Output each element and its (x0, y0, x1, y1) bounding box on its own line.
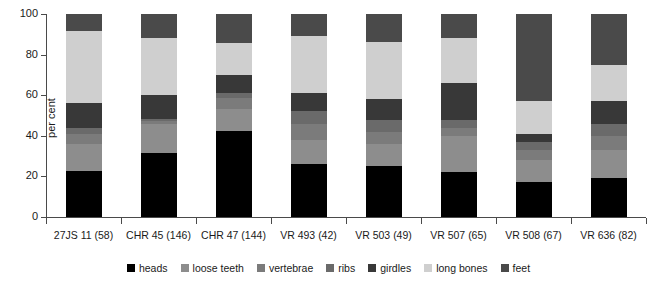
bar-segment-feet[interactable] (441, 14, 477, 38)
bar-segment-feet[interactable] (516, 14, 552, 101)
bar-segment-feet[interactable] (66, 14, 102, 31)
y-tick-100 (41, 14, 47, 15)
bar-segment-ribs[interactable] (216, 93, 252, 98)
bar-segment-vertebrae[interactable] (441, 128, 477, 136)
bar-4[interactable] (366, 14, 402, 217)
x-tick-4 (346, 218, 347, 224)
bar-segment-ribs[interactable] (441, 120, 477, 128)
x-tick-3 (271, 218, 272, 224)
bar-segment-girdles[interactable] (441, 83, 477, 120)
bar-segment-girdles[interactable] (216, 75, 252, 93)
bar-segment-loose-teeth[interactable] (216, 109, 252, 130)
bar-segment-ribs[interactable] (591, 124, 627, 136)
legend-label: feet (513, 262, 531, 274)
bar-segment-feet[interactable] (216, 14, 252, 43)
bar-segment-loose-teeth[interactable] (141, 124, 177, 153)
bar-segment-heads[interactable] (516, 182, 552, 217)
legend-swatch-icon (368, 264, 376, 272)
x-tick-1 (121, 218, 122, 224)
y-tick-label-0: 0 (8, 211, 38, 222)
bar-5[interactable] (441, 14, 477, 217)
bar-segment-long-bones[interactable] (216, 43, 252, 74)
bar-segment-ribs[interactable] (141, 119, 177, 121)
legend-item-heads[interactable]: heads (127, 262, 168, 274)
bar-segment-vertebrae[interactable] (216, 98, 252, 109)
y-tick-80 (41, 55, 47, 56)
bar-segment-heads[interactable] (216, 131, 252, 217)
bar-segment-vertebrae[interactable] (141, 121, 177, 124)
legend-item-loose-teeth[interactable]: loose teeth (181, 262, 244, 274)
legend-swatch-icon (326, 264, 334, 272)
y-axis-line (46, 14, 47, 217)
bar-segment-heads[interactable] (366, 166, 402, 217)
bar-segment-long-bones[interactable] (66, 31, 102, 103)
bar-segment-loose-teeth[interactable] (366, 144, 402, 166)
legend-label: long bones (436, 262, 487, 274)
bar-segment-loose-teeth[interactable] (66, 144, 102, 171)
legend-swatch-icon (501, 264, 509, 272)
bar-segment-long-bones[interactable] (141, 38, 177, 95)
bar-segment-loose-teeth[interactable] (441, 136, 477, 173)
legend-swatch-icon (424, 264, 432, 272)
x-tick-2 (196, 218, 197, 224)
bar-segment-loose-teeth[interactable] (516, 160, 552, 182)
bar-segment-ribs[interactable] (366, 120, 402, 132)
bar-segment-girdles[interactable] (141, 95, 177, 118)
bar-segment-loose-teeth[interactable] (291, 140, 327, 164)
bar-segment-vertebrae[interactable] (516, 150, 552, 160)
legend-item-long-bones[interactable]: long bones (424, 262, 487, 274)
bar-0[interactable] (66, 14, 102, 217)
bar-segment-loose-teeth[interactable] (591, 150, 627, 178)
y-tick-60 (41, 95, 47, 96)
bar-segment-vertebrae[interactable] (291, 124, 327, 140)
bar-segment-heads[interactable] (66, 171, 102, 217)
chart-legend: headsloose teethvertebraeribsgirdleslong… (0, 262, 657, 274)
y-tick-label-20: 20 (8, 170, 38, 181)
bar-segment-long-bones[interactable] (291, 36, 327, 93)
bar-3[interactable] (291, 14, 327, 217)
bar-segment-long-bones[interactable] (591, 65, 627, 102)
bar-segment-heads[interactable] (291, 164, 327, 217)
legend-item-girdles[interactable]: girdles (368, 262, 411, 274)
legend-label: heads (139, 262, 168, 274)
bar-1[interactable] (141, 14, 177, 217)
bar-segment-girdles[interactable] (366, 99, 402, 119)
legend-item-ribs[interactable]: ribs (326, 262, 355, 274)
bar-segment-feet[interactable] (291, 14, 327, 36)
bar-segment-girdles[interactable] (66, 103, 102, 127)
legend-swatch-icon (257, 264, 265, 272)
y-tick-label-100: 100 (8, 8, 38, 19)
bar-segment-feet[interactable] (366, 14, 402, 42)
bar-segment-heads[interactable] (591, 178, 627, 217)
bar-segment-heads[interactable] (441, 172, 477, 217)
y-tick-label-60: 60 (8, 89, 38, 100)
bar-segment-heads[interactable] (141, 153, 177, 217)
bar-segment-feet[interactable] (141, 14, 177, 38)
bar-segment-ribs[interactable] (66, 128, 102, 134)
bar-7[interactable] (591, 14, 627, 217)
bar-segment-ribs[interactable] (291, 111, 327, 123)
bar-2[interactable] (216, 14, 252, 217)
bar-segment-girdles[interactable] (516, 134, 552, 142)
bar-segment-vertebrae[interactable] (366, 132, 402, 144)
bar-segment-vertebrae[interactable] (591, 136, 627, 150)
legend-item-vertebrae[interactable]: vertebrae (257, 262, 313, 274)
bar-segment-girdles[interactable] (291, 93, 327, 111)
bar-segment-ribs[interactable] (516, 142, 552, 150)
x-tick-7 (571, 218, 572, 224)
bar-segment-feet[interactable] (591, 14, 627, 65)
bar-segment-girdles[interactable] (591, 101, 627, 123)
legend-swatch-icon (181, 264, 189, 272)
x-tick-5 (421, 218, 422, 224)
bar-segment-vertebrae[interactable] (66, 134, 102, 144)
legend-label: girdles (380, 262, 411, 274)
bar-segment-long-bones[interactable] (366, 42, 402, 99)
bar-segment-long-bones[interactable] (441, 38, 477, 83)
y-tick-20 (41, 176, 47, 177)
x-tick-6 (496, 218, 497, 224)
bar-segment-long-bones[interactable] (516, 101, 552, 133)
legend-label: ribs (338, 262, 355, 274)
bar-6[interactable] (516, 14, 552, 217)
stacked-bar-chart: per cent 020406080100 27JS 11 (58)CHR 45… (0, 0, 657, 286)
legend-item-feet[interactable]: feet (501, 262, 531, 274)
